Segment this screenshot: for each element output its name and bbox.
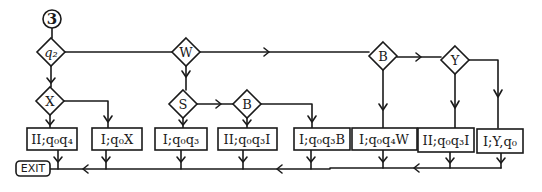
flowchart-canvas: 3 q₂ X W S B B Y II;q₀q₄ I;q₀X I;q₀q₃: [0, 0, 542, 192]
decision-b2: B: [369, 42, 397, 70]
action-box-3: I;q₀q₃: [155, 128, 207, 150]
svg-text:I;q₀q₄W: I;q₀q₄W: [359, 132, 410, 147]
action-box-7: II;q₀q₃I: [418, 128, 474, 152]
svg-text:I;Y,q₀: I;Y,q₀: [483, 134, 517, 149]
svg-text:Y: Y: [450, 53, 460, 68]
action-box-8: I;Y,q₀: [477, 129, 523, 153]
action-box-2: I;q₀X: [92, 128, 142, 150]
svg-text:II;q₀q₃I: II;q₀q₃I: [423, 133, 470, 148]
svg-text:q₂: q₂: [44, 45, 58, 60]
decision-b1: B: [233, 90, 261, 118]
action-box-6: I;q₀q₄W: [352, 128, 417, 150]
decision-y: Y: [441, 46, 469, 74]
action-box-1: II;q₀q₄: [27, 128, 77, 150]
svg-text:W: W: [179, 45, 193, 60]
svg-text:B: B: [378, 49, 388, 64]
svg-text:X: X: [45, 94, 55, 109]
svg-text:II;q₀q₄: II;q₀q₄: [31, 132, 73, 147]
svg-text:EXIT: EXIT: [21, 162, 46, 175]
svg-text:S: S: [179, 97, 188, 112]
decision-s: S: [169, 90, 197, 118]
start-node-label: 3: [47, 10, 57, 28]
action-box-5: I;q₀q₃B: [294, 128, 350, 150]
decision-q2: q₂: [37, 38, 65, 66]
svg-text:B: B: [242, 97, 252, 112]
svg-text:II;q₀q₃I: II;q₀q₃I: [224, 132, 271, 147]
start-node: 3: [43, 10, 61, 28]
svg-text:I;q₀q₃B: I;q₀q₃B: [299, 132, 345, 147]
decision-w: W: [172, 38, 200, 66]
svg-text:I;q₀X: I;q₀X: [101, 132, 134, 147]
exit-terminal: EXIT: [16, 161, 50, 176]
svg-text:I;q₀q₃: I;q₀q₃: [163, 132, 200, 147]
decision-x: X: [36, 87, 64, 115]
action-box-4: II;q₀q₃I: [218, 128, 277, 150]
